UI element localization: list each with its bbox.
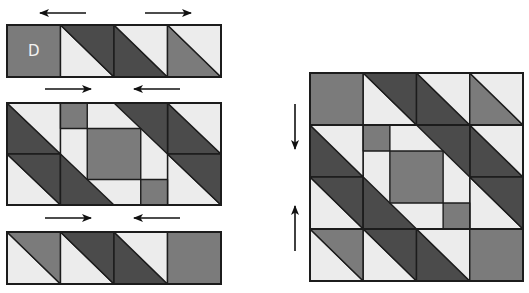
- block-cell-3-3-square: [470, 229, 523, 281]
- row-2-center-square: [87, 129, 141, 180]
- assembled-block: [310, 73, 523, 281]
- unassembled-rows: [7, 25, 221, 284]
- quilt-diagram-canvas: [0, 0, 529, 293]
- row-2-small-square-bottom-right: [141, 180, 168, 206]
- block-cell-0-0-square: [310, 73, 363, 125]
- row-3-cell-3-3-square: [168, 232, 222, 284]
- unit-label-d: D: [28, 44, 40, 59]
- block-small-square-top-left: [363, 125, 390, 151]
- block-small-square-bottom-right: [443, 203, 470, 229]
- block-center-square: [390, 151, 443, 203]
- quilt-diagram: D: [0, 0, 529, 293]
- row-2-small-square-top-left: [61, 103, 88, 129]
